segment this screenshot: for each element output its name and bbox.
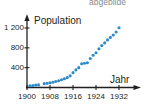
y-tick-label: 800 <box>0 43 24 52</box>
data-point <box>54 80 57 83</box>
data-point <box>115 30 118 33</box>
chart-figure: abgebilde Population Jahr 4008001 200 19… <box>0 0 144 108</box>
data-point <box>86 61 89 64</box>
data-point <box>69 74 72 77</box>
data-point <box>89 57 92 60</box>
data-point <box>92 54 95 57</box>
data-point <box>51 81 54 84</box>
y-tick-label: 400 <box>0 63 24 72</box>
data-point <box>66 76 69 79</box>
data-point <box>112 33 115 36</box>
data-point <box>103 41 106 44</box>
data-point <box>48 81 51 84</box>
data-point <box>46 82 49 85</box>
data-point <box>37 83 40 86</box>
data-point <box>31 84 34 87</box>
x-axis-arrowhead <box>134 85 142 90</box>
data-point <box>106 38 109 41</box>
data-point <box>34 84 37 87</box>
data-point <box>83 62 86 65</box>
data-point <box>117 26 120 29</box>
data-point <box>28 84 31 87</box>
data-point <box>97 47 100 50</box>
data-point <box>63 77 66 80</box>
data-point <box>60 78 63 81</box>
x-tick-label: 1932 <box>104 92 134 101</box>
data-point <box>109 36 112 39</box>
data-point <box>43 82 46 85</box>
data-point <box>74 68 77 71</box>
x-axis-title: Jahr <box>110 74 129 85</box>
data-point <box>71 71 74 74</box>
data-point <box>77 66 80 69</box>
data-point <box>57 79 60 82</box>
y-axis-arrowhead <box>24 14 29 21</box>
data-point <box>80 62 83 65</box>
data-point <box>94 51 97 54</box>
data-point <box>100 44 103 47</box>
y-tick-label: 1 200 <box>0 23 24 32</box>
y-axis-title: Population <box>34 15 81 26</box>
